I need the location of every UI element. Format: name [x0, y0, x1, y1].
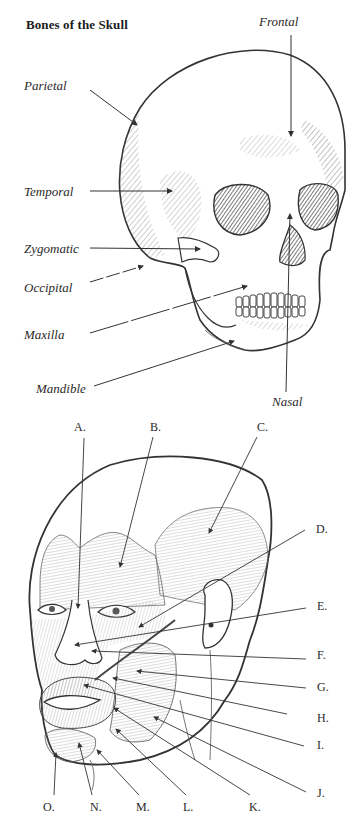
muscle-label-o: O. [43, 800, 55, 815]
muscle-label-a: A. [74, 420, 86, 435]
anatomy-illustration [0, 0, 361, 830]
label-maxilla: Maxilla [24, 327, 64, 343]
muscle-label-g: G. [317, 680, 329, 695]
label-zygomatic: Zygomatic [24, 241, 79, 257]
muscle-label-k: K. [249, 800, 261, 815]
muscle-label-j: J. [317, 786, 325, 801]
muscle-label-d: D. [316, 522, 328, 537]
muscle-label-b: B. [150, 420, 161, 435]
muscle-label-f: F. [317, 648, 326, 663]
muscle-label-e: E. [317, 599, 327, 614]
muscle-label-m: M. [136, 800, 150, 815]
muscle-label-l: L. [183, 800, 193, 815]
label-mandible: Mandible [36, 381, 86, 397]
muscle-label-h: H. [317, 711, 329, 726]
muscle-label-i: I. [317, 738, 324, 753]
face-muscle-drawing [29, 457, 271, 790]
label-temporal: Temporal [24, 184, 73, 200]
label-nasal: Nasal [272, 394, 302, 410]
parietal-pointer [90, 90, 137, 125]
pointer-o [54, 753, 56, 795]
skull-drawing [119, 50, 345, 350]
label-occipital: Occipital [24, 280, 72, 296]
muscle-label-c: C. [257, 420, 268, 435]
muscle-label-n: N. [90, 800, 102, 815]
label-parietal: Parietal [24, 78, 67, 94]
label-frontal: Frontal [259, 14, 298, 30]
occipital-pointer [90, 266, 143, 282]
mandible-pointer [94, 341, 234, 386]
pointer-j [154, 717, 306, 792]
